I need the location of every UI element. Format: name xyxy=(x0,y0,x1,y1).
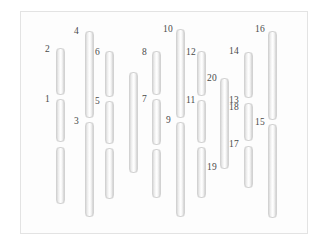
chromosome-segment xyxy=(56,48,65,95)
breakpoint-label: 2 xyxy=(45,44,50,54)
chromosome-segment xyxy=(244,52,253,98)
breakpoint-label: 8 xyxy=(142,47,147,57)
chromosome-ideogram-figure: 2143658710912112019141318171615 xyxy=(0,0,329,249)
breakpoint-label: 7 xyxy=(142,94,147,104)
chromosome-segment xyxy=(244,103,253,141)
chromosome-segment xyxy=(56,147,65,204)
chromosome-segment xyxy=(244,146,253,188)
chromosome-segment xyxy=(129,72,138,173)
breakpoint-label: 5 xyxy=(95,96,100,106)
breakpoint-label: 16 xyxy=(255,24,265,34)
breakpoint-label: 17 xyxy=(229,139,239,149)
breakpoint-label: 4 xyxy=(74,26,79,36)
chromosome-segment xyxy=(220,78,229,169)
breakpoint-label: 18 xyxy=(229,102,239,112)
chromosome-segment xyxy=(105,148,114,199)
breakpoint-label: 12 xyxy=(186,47,196,57)
chromosome-segment xyxy=(105,51,114,97)
chromosome-segment xyxy=(268,124,277,218)
breakpoint-label: 11 xyxy=(186,95,196,105)
chromosome-segment xyxy=(85,122,94,217)
breakpoint-label: 9 xyxy=(166,115,171,125)
chromosome-segment xyxy=(85,31,94,118)
breakpoint-label: 19 xyxy=(207,162,217,172)
breakpoint-label: 6 xyxy=(95,47,100,57)
chromosome-segment xyxy=(176,122,185,217)
chromosome-segment xyxy=(197,51,206,96)
chromosome-segment xyxy=(268,31,277,120)
chromosome-segment xyxy=(152,99,161,145)
chromosome-segment xyxy=(152,51,161,95)
chromosome-segment xyxy=(105,101,114,144)
chromosome-segment xyxy=(197,147,206,198)
breakpoint-label: 15 xyxy=(255,117,265,127)
breakpoint-label: 20 xyxy=(207,73,217,83)
chromosome-segment xyxy=(176,29,185,118)
chromosome-segment xyxy=(152,149,161,198)
chromosome-segment xyxy=(56,99,65,142)
breakpoint-label: 1 xyxy=(45,94,50,104)
breakpoint-label: 3 xyxy=(74,116,79,126)
chromosome-segment xyxy=(197,100,206,143)
breakpoint-label: 14 xyxy=(229,46,239,56)
breakpoint-label: 10 xyxy=(163,24,173,34)
